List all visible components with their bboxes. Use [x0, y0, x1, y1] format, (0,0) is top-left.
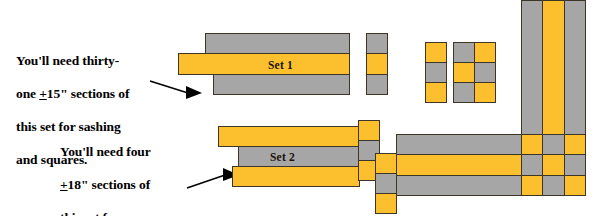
- set-2-strip-gray-middle: [238, 146, 360, 167]
- callout-squares-line-1: You'll need four: [60, 144, 151, 159]
- set-2-label: Set 2: [270, 151, 295, 163]
- set-1-strip-gold-middle: [178, 53, 350, 75]
- vertical-sashing-gray-right: [564, 0, 586, 135]
- nine-patch-cell-r1c2: [474, 62, 496, 83]
- set-2-strip-gold-top: [218, 126, 360, 147]
- nine-patch-cell-r2c0: [425, 82, 447, 103]
- intersection-cell-r1c1: [542, 154, 565, 176]
- nine-patch-cell-r2c2: [474, 82, 496, 103]
- nine-patch-cell-r0c1: [453, 42, 475, 63]
- intersection-cell-r2c2: [564, 175, 586, 196]
- vertical-sashing-gray-left: [521, 0, 543, 135]
- callout-squares-line-2: +18" sections of: [60, 177, 150, 192]
- nine-patch-cell-r2c1: [453, 82, 475, 103]
- diagram-canvas: You'll need thirty- one +15" sections of…: [0, 0, 595, 216]
- intersection-cell-r2c0: [521, 175, 543, 196]
- horizontal-sashing-gray-bottom: [396, 175, 522, 196]
- horizontal-sashing-gray-top: [396, 134, 522, 155]
- callout-squares-line-3: this set for: [60, 210, 120, 217]
- set-2-segment-b-cell-gray-middle: [375, 173, 397, 194]
- set-2-segment-a-cell-gold-top: [358, 120, 380, 141]
- set-1-strip-gray-top: [205, 33, 350, 54]
- intersection-cell-r0c2: [564, 134, 586, 155]
- segment-cell-gray-top: [366, 33, 388, 54]
- callout-sashing-line-1: You'll need thirty-: [16, 53, 119, 68]
- horizontal-sashing-gold-center: [396, 154, 522, 176]
- intersection-cell-r1c0: [521, 154, 543, 176]
- intersection-cell-r0c1: [542, 134, 565, 155]
- segment-cell-gold-middle: [366, 53, 388, 75]
- nine-patch-cell-r0c2: [474, 42, 496, 63]
- set-2-strip-gold-bottom: [232, 166, 360, 187]
- nine-patch-cell-r0c0: [425, 42, 447, 63]
- set-2-segment-b-cell-gold-top: [375, 153, 397, 174]
- set-1-label: Set 1: [268, 59, 293, 71]
- set-1-strip-gray-bottom: [213, 74, 350, 95]
- intersection-cell-r0c0: [521, 134, 543, 155]
- nine-patch-cell-r1c1: [453, 62, 475, 83]
- segment-cell-gray-bottom: [366, 74, 388, 95]
- callout-sashing-line-2: one +15" sections of: [16, 86, 129, 101]
- arrow-to-set-1: [148, 78, 208, 100]
- intersection-cell-r2c1: [542, 175, 565, 196]
- nine-patch-cell-r1c0: [425, 62, 447, 83]
- intersection-cell-r1c2: [564, 154, 586, 176]
- vertical-sashing-gold-center: [542, 0, 565, 135]
- set-2-segment-b-cell-gold-bottom: [375, 193, 397, 214]
